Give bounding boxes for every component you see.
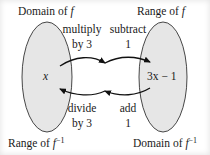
- diagram-graphics: [0, 0, 210, 155]
- range-of-f-label: Range of f: [137, 6, 185, 18]
- diagram-frame: Domain of f Range of f multiply by 3 sub…: [0, 0, 210, 155]
- subtract-step-label: subtract 1: [106, 24, 150, 50]
- add-step-label: add 1: [106, 103, 150, 129]
- range-of-f-inverse-label: Range of f−1: [8, 137, 64, 150]
- 3x-minus-1-element: 3x − 1: [147, 71, 177, 83]
- divide-step-label: divide by 3: [62, 103, 102, 129]
- domain-of-f-label: Domain of f: [18, 6, 74, 18]
- multiply-step-label: multiply by 3: [62, 24, 102, 50]
- domain-of-f-inverse-label: Domain of f−1: [133, 137, 197, 150]
- x-element: x: [43, 71, 48, 83]
